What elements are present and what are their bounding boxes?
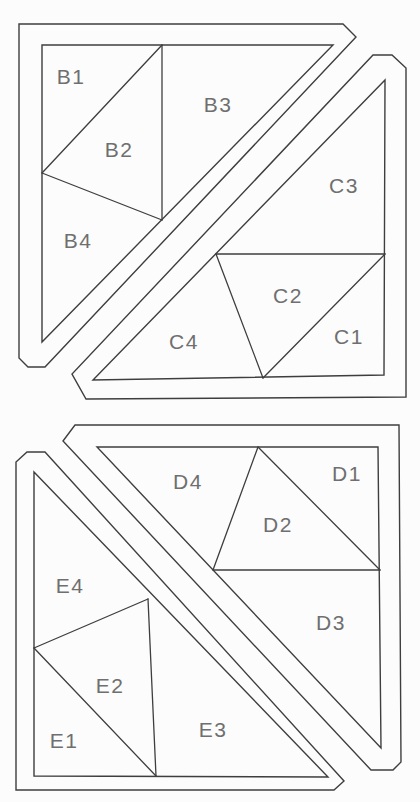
pattern-page: B1 B2 B3 B4 C1 C2 C3 C4 D1 D2 D3 xyxy=(0,0,420,802)
unit-B-seam-b2-b4 xyxy=(42,173,162,220)
unit-D-triangle xyxy=(97,447,381,748)
piece-label-e2: E2 xyxy=(96,674,125,697)
piece-label-e3: E3 xyxy=(199,718,228,741)
piece-label-b2: B2 xyxy=(105,138,134,161)
piece-label-c4: C4 xyxy=(169,330,199,353)
piece-label-e1: E1 xyxy=(50,729,79,752)
piece-label-b3: B3 xyxy=(204,93,233,116)
unit-E: E1 E2 E3 E4 xyxy=(16,452,344,790)
piece-label-c3: C3 xyxy=(329,174,359,197)
piece-label-e4: E4 xyxy=(56,574,85,597)
piecing-diagram: B1 B2 B3 B4 C1 C2 C3 C4 D1 D2 D3 xyxy=(0,0,420,802)
piece-label-d1: D1 xyxy=(332,462,362,485)
unit-D-seam-d2-d4 xyxy=(213,447,258,570)
piece-label-c1: C1 xyxy=(334,325,364,348)
unit-B: B1 B2 B3 B4 xyxy=(19,24,356,367)
unit-C-seam-c1-c2 xyxy=(263,254,385,378)
piece-label-b1: B1 xyxy=(57,65,86,88)
piece-label-d2: D2 xyxy=(263,513,293,536)
unit-D: D1 D2 D3 D4 xyxy=(63,425,401,770)
unit-C: C1 C2 C3 C4 xyxy=(72,55,406,399)
piece-label-b4: B4 xyxy=(64,229,93,252)
piece-label-d4: D4 xyxy=(173,470,203,493)
unit-C-seam-c2-c4 xyxy=(216,254,263,378)
unit-E-seam-e1-e2 xyxy=(34,648,156,776)
piece-label-c2: C2 xyxy=(273,284,303,307)
unit-E-seam-e2-e4 xyxy=(34,599,148,648)
piece-label-d3: D3 xyxy=(316,611,346,634)
unit-E-seam-e2-e3 xyxy=(148,599,156,776)
